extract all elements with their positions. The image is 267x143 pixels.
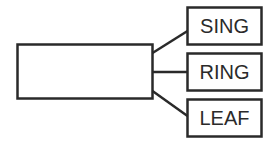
word-tree-diagram: SING RING LEAF bbox=[0, 0, 267, 143]
child-label-leaf: LEAF bbox=[199, 107, 249, 129]
root-box bbox=[18, 45, 153, 99]
connector-sing bbox=[153, 31, 188, 53]
child-label-sing: SING bbox=[200, 15, 249, 37]
connector-leaf bbox=[153, 91, 188, 116]
child-label-ring: RING bbox=[200, 61, 250, 83]
